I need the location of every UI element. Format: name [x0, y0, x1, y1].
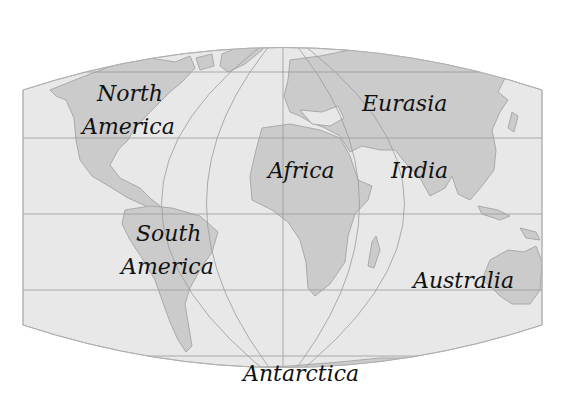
- label-india: India: [390, 158, 448, 183]
- label-antarctica: Antarctica: [241, 361, 359, 386]
- world-map: North America South America Africa Euras…: [0, 0, 566, 413]
- world-map-svg: North America South America Africa Euras…: [0, 0, 566, 413]
- label-africa: Africa: [266, 158, 335, 183]
- label-eurasia: Eurasia: [361, 91, 447, 116]
- label-australia: Australia: [411, 268, 514, 293]
